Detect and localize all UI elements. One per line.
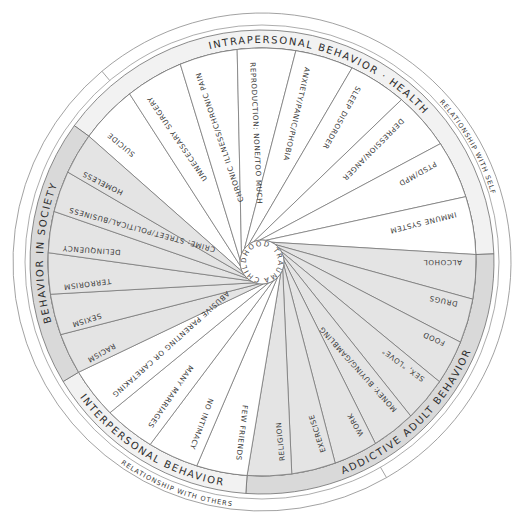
trauma-wheel-diagram: RELATIONSHIP WITH SELFRELATIONSHIP WITH … bbox=[0, 0, 513, 525]
segment-label: ALCOHOL bbox=[423, 258, 462, 267]
